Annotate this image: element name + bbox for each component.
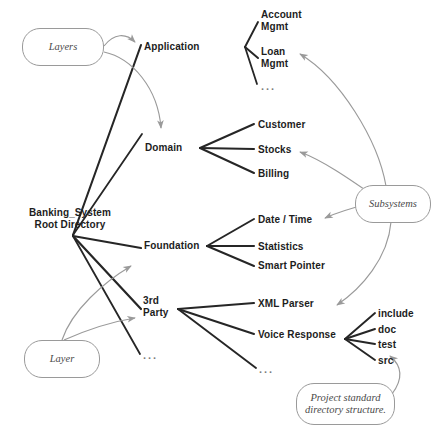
edge-voiceresponse-include: [345, 313, 375, 339]
edge-thirdparty-voiceresponse: [178, 309, 254, 334]
node-date-time: Date / Time: [258, 214, 312, 226]
node-test: test: [378, 339, 396, 351]
edge-subsystems-xmlparser: [337, 222, 391, 305]
edge-subsystems-loan: [300, 54, 386, 186]
node-third-party: 3rd Party: [143, 295, 169, 319]
node-application: Application: [144, 41, 200, 53]
edge-layers-domain: [104, 52, 161, 128]
ellipsis-root-more: ...: [143, 349, 158, 361]
note-layers-label: Layers: [49, 41, 78, 54]
node-billing: Billing: [258, 168, 289, 180]
node-account-mgmt: Account Mgmt: [261, 9, 302, 33]
edge-root-ellipsis: [73, 236, 140, 354]
note-project-standard-label: Project standard directory structure.: [297, 392, 394, 417]
edge-application-account: [245, 22, 258, 47]
node-doc: doc: [378, 324, 396, 336]
note-subsystems-label: Subsystems: [369, 198, 417, 211]
note-layer-label: Layer: [50, 353, 75, 366]
node-customer: Customer: [258, 119, 305, 131]
edge-thirdparty-ellipsis: [178, 309, 256, 368]
node-smart-pointer: Smart Pointer: [258, 260, 325, 272]
ellipsis-application-more: ...: [261, 80, 276, 92]
directory-structure-diagram: Banking_System Root Directory Applicatio…: [0, 0, 441, 446]
node-loan-mgmt: Loan Mgmt: [261, 46, 288, 70]
node-domain: Domain: [145, 142, 182, 154]
note-subsystems: Subsystems: [355, 185, 431, 223]
edge-foundation-datetime: [207, 219, 254, 246]
edge-layer-thirdparty: [64, 318, 135, 340]
node-xml-parser: XML Parser: [258, 298, 314, 310]
node-voice-response: Voice Response: [258, 329, 336, 341]
ellipsis-third-party-more: ...: [259, 363, 274, 375]
node-foundation: Foundation: [144, 240, 199, 252]
note-project-standard-directory: Project standard directory structure.: [296, 383, 395, 425]
edge-layers-application: [104, 36, 135, 46]
note-layer: Layer: [24, 340, 100, 378]
edge-thirdparty-xmlparser: [178, 303, 254, 309]
node-statistics: Statistics: [258, 241, 303, 253]
edges-solid: [73, 22, 375, 368]
node-include: include: [378, 308, 414, 320]
note-layers: Layers: [22, 28, 104, 66]
node-src: src: [378, 355, 393, 367]
edge-domain-stocks: [200, 148, 254, 149]
edge-domain-customer: [200, 124, 254, 148]
node-stocks: Stocks: [258, 144, 291, 156]
edge-foundation-smartpointer: [207, 246, 254, 266]
edge-domain-billing: [200, 148, 254, 173]
node-banking-system-root: Banking_System Root Directory: [16, 207, 124, 231]
